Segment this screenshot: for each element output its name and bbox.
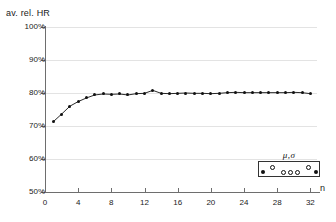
legend: μ,σ	[258, 150, 320, 177]
legend-title: μ,σ	[258, 150, 320, 160]
legend-marker-filled-circle	[314, 170, 318, 174]
legend-marker-open-circle	[270, 165, 275, 170]
legend-marker-box	[258, 161, 320, 177]
chart-figure: av. rel. HR n 50%60%70%80%90%100% 048121…	[0, 0, 336, 222]
legend-marker-filled-circle	[261, 170, 265, 174]
legend-marker-open-circle	[306, 165, 311, 170]
legend-marker-open-circle	[295, 170, 300, 175]
legend-marker-open-circle	[281, 170, 286, 175]
series-line	[0, 0, 336, 222]
legend-marker-open-circle	[288, 170, 293, 175]
